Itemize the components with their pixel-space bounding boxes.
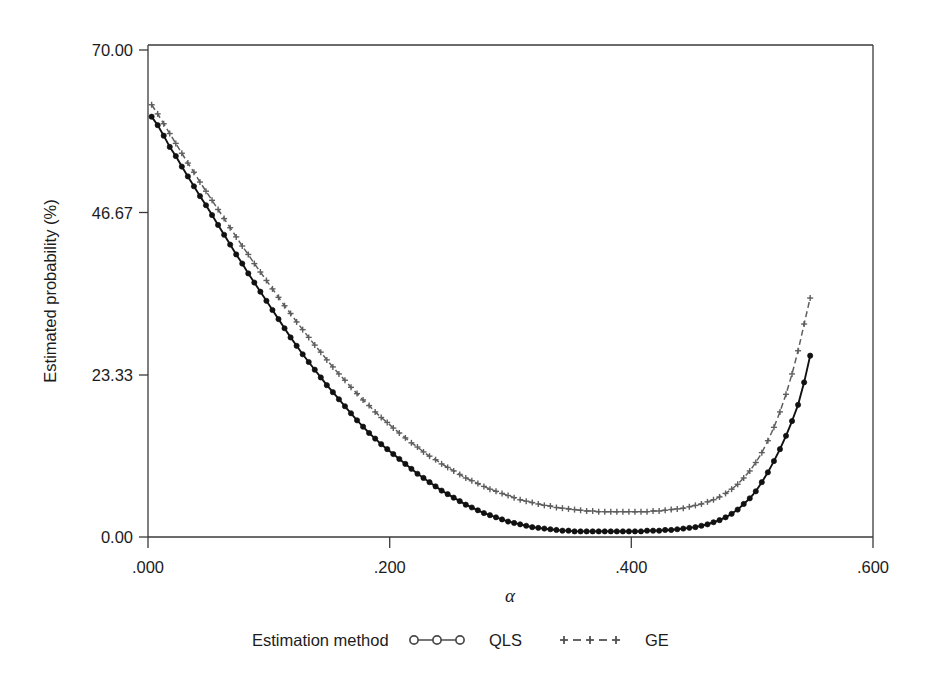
data-point-qls	[185, 174, 190, 179]
data-point-qls	[518, 522, 523, 527]
data-point-qls	[590, 529, 595, 534]
data-point-qls	[644, 528, 649, 533]
x-tick-label-200: .200	[374, 558, 406, 576]
data-point-qls	[548, 527, 553, 532]
data-point-qls	[240, 261, 245, 266]
series-qls	[149, 114, 813, 534]
data-point-qls	[312, 367, 317, 372]
data-point-qls	[179, 164, 184, 169]
data-point-qls	[687, 525, 692, 530]
data-point-qls	[747, 496, 752, 501]
data-point-qls	[161, 133, 166, 138]
data-point-qls	[282, 326, 287, 331]
x-axis-title: α	[505, 585, 516, 606]
data-point-qls	[276, 317, 281, 322]
legend-marker-ge	[560, 636, 620, 644]
data-point-qls	[499, 517, 504, 522]
data-point-qls	[650, 528, 655, 533]
data-point-qls	[717, 518, 722, 523]
data-point-qls	[228, 242, 233, 247]
data-point-qls	[711, 520, 716, 525]
data-point-qls	[234, 252, 239, 257]
data-point-qls	[783, 433, 788, 438]
data-point-qls	[360, 424, 365, 429]
data-point-qls	[155, 123, 160, 128]
data-point-qls	[560, 528, 565, 533]
data-point-qls	[693, 525, 698, 530]
y-axis-title: Estimated probability (%)	[41, 199, 59, 382]
data-point-qls	[771, 458, 776, 463]
x-axis-ticks	[148, 537, 873, 548]
x-tick-label-600: .600	[857, 558, 889, 576]
data-point-qls	[614, 529, 619, 534]
plot-frame	[148, 45, 873, 537]
data-point-qls	[264, 298, 269, 303]
chart-figure: 70.00 46.67 23.33 0.00 .000 .200 .400 .6…	[0, 0, 930, 683]
data-point-qls	[572, 529, 577, 534]
data-point-qls	[415, 471, 420, 476]
data-point-qls	[379, 442, 384, 447]
data-point-qls	[620, 529, 625, 534]
series-line-qls	[152, 117, 811, 532]
chart-legend: Estimation method QLS GE	[252, 631, 669, 649]
data-point-qls	[445, 492, 450, 497]
data-point-qls	[427, 480, 432, 485]
data-point-qls	[632, 529, 637, 534]
data-point-qls	[802, 380, 807, 385]
data-point-qls	[608, 529, 613, 534]
data-point-qls	[669, 527, 674, 532]
x-tick-label-400: .400	[615, 558, 647, 576]
data-point-qls	[173, 153, 178, 158]
data-point-qls	[681, 526, 686, 531]
data-point-qls	[512, 520, 517, 525]
data-point-qls	[433, 484, 438, 489]
data-point-qls	[354, 418, 359, 423]
data-point-qls	[167, 144, 172, 149]
series-ge	[149, 102, 814, 515]
data-point-qls	[191, 184, 196, 189]
data-point-qls	[342, 404, 347, 409]
data-point-qls	[367, 430, 372, 435]
data-point-qls	[705, 522, 710, 527]
data-point-qls	[753, 489, 758, 494]
data-point-qls	[409, 466, 414, 471]
data-point-qls	[759, 480, 764, 485]
data-point-qls	[493, 515, 498, 520]
data-point-qls	[542, 526, 547, 531]
data-point-qls	[391, 451, 396, 456]
data-point-qls	[246, 271, 251, 276]
data-point-qls	[578, 529, 583, 534]
legend-title: Estimation method	[252, 631, 389, 649]
data-point-qls	[463, 502, 468, 507]
data-point-qls	[258, 289, 263, 294]
data-point-qls	[252, 280, 257, 285]
data-point-qls	[536, 525, 541, 530]
data-point-qls	[403, 461, 408, 466]
data-point-qls	[215, 222, 220, 227]
data-point-qls	[584, 529, 589, 534]
data-point-qls	[294, 343, 299, 348]
data-point-qls	[475, 508, 480, 513]
data-point-qls	[675, 527, 680, 532]
data-point-qls	[397, 456, 402, 461]
series-line-ge	[152, 105, 811, 512]
data-point-qls	[487, 513, 492, 518]
data-point-qls	[554, 527, 559, 532]
data-point-qls	[336, 397, 341, 402]
data-point-qls	[795, 402, 800, 407]
data-point-qls	[330, 390, 335, 395]
y-axis-tick-labels: 70.00 46.67 23.33 0.00	[92, 41, 133, 546]
data-point-qls	[524, 523, 529, 528]
chart-canvas: 70.00 46.67 23.33 0.00 .000 .200 .400 .6…	[0, 0, 930, 683]
y-tick-label-70: 70.00	[92, 41, 133, 59]
data-point-qls	[530, 525, 535, 530]
data-point-qls	[638, 529, 643, 534]
data-point-qls	[197, 194, 202, 199]
data-point-qls	[626, 529, 631, 534]
y-axis-ticks	[139, 50, 148, 537]
y-tick-label-23: 23.33	[92, 366, 133, 384]
data-point-qls	[209, 212, 214, 217]
data-point-qls	[566, 528, 571, 533]
data-point-qls	[765, 470, 770, 475]
data-point-qls	[789, 418, 794, 423]
